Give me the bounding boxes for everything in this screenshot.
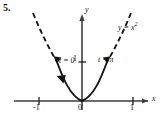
x-tick-label-one: 1 [130,104,134,112]
y-axis-label: y [85,6,89,14]
curve-equation-exponent: 2 [135,21,138,27]
x-tick-label-negative-one: -1 [33,104,40,112]
origin-label: 0 [78,104,82,112]
figure-container: 5. y x -1 0 1 1 t = 0 t = π y = x2 [0,0,163,116]
curve-equation-base: y = x [118,23,135,32]
curve-equation-label: y = x2 [118,21,138,32]
problem-number: 5. [3,3,11,13]
annotation-t-start: t = 0 [59,57,75,65]
curve-dashed-left [33,13,57,62]
annotation-t-end: t = π [98,56,114,64]
parabola-plot [0,0,163,116]
x-axis-label: x [152,95,156,103]
